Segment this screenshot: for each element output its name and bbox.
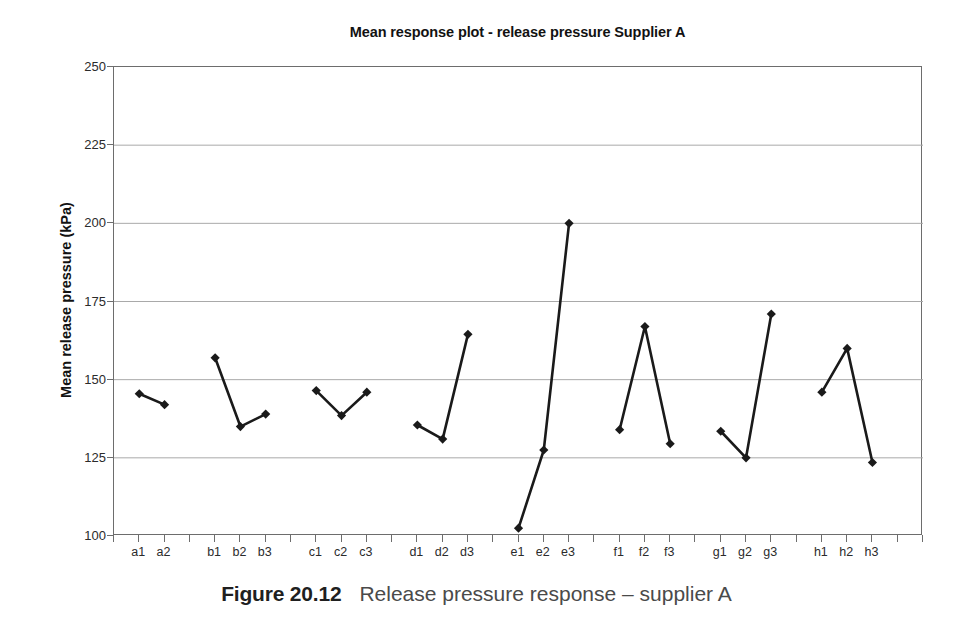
x-tick-label-f1: f1 [613, 545, 623, 559]
x-tick-mark [239, 535, 240, 542]
series-line-group-g [721, 314, 772, 458]
x-tick-label-g2: g2 [738, 545, 752, 559]
x-tick-mark [391, 535, 392, 542]
data-point-d3 [463, 330, 472, 339]
x-tick-label-b1: b1 [207, 545, 221, 559]
x-tick-mark [694, 535, 695, 542]
data-point-f3 [666, 439, 675, 448]
series-line-group-b [215, 358, 266, 427]
data-point-a2 [160, 400, 169, 409]
series-markers [135, 219, 877, 533]
y-axis-tick-labels: 100125150175200225250 [54, 66, 106, 535]
data-point-h3 [868, 458, 877, 467]
x-tick-mark [568, 535, 569, 542]
x-tick-mark [720, 535, 721, 542]
x-tick-label-c2: c2 [334, 545, 347, 559]
x-tick-mark [442, 535, 443, 542]
x-tick-mark [518, 535, 519, 542]
series-line-group-e [519, 223, 570, 528]
y-tick-label: 150 [60, 371, 106, 386]
x-tick-mark [265, 535, 266, 542]
data-point-b3 [261, 409, 270, 418]
data-point-e2 [539, 445, 548, 454]
series-line-group-h [822, 348, 873, 462]
x-tick-label-d1: d1 [409, 545, 423, 559]
y-tick-label: 250 [60, 59, 106, 74]
x-tick-mark [543, 535, 544, 542]
y-tick-mark [107, 66, 114, 67]
x-tick-label-e3: e3 [561, 545, 575, 559]
x-tick-mark [113, 535, 114, 542]
x-tick-mark [897, 535, 898, 542]
data-point-e3 [564, 219, 573, 228]
x-tick-mark [770, 535, 771, 542]
y-tick-label: 200 [60, 215, 106, 230]
x-tick-label-c1: c1 [309, 545, 322, 559]
x-tick-mark [416, 535, 417, 542]
x-tick-mark [846, 535, 847, 542]
x-tick-mark [366, 535, 367, 542]
data-point-g3 [767, 309, 776, 318]
y-tick-mark [107, 457, 114, 458]
data-point-b1 [211, 353, 220, 362]
x-tick-mark [164, 535, 165, 542]
x-tick-mark [290, 535, 291, 542]
x-tick-label-d3: d3 [460, 545, 474, 559]
series-line-group-f [620, 327, 671, 444]
x-tick-mark [138, 535, 139, 542]
x-tick-mark [214, 535, 215, 542]
x-tick-label-e1: e1 [511, 545, 525, 559]
x-tick-label-c3: c3 [359, 545, 372, 559]
series-line-group-d [417, 334, 468, 439]
x-tick-label-h3: h3 [864, 545, 878, 559]
y-tick-label: 125 [60, 449, 106, 464]
data-point-b2 [236, 422, 245, 431]
x-tick-mark [593, 535, 594, 542]
x-tick-label-h2: h2 [839, 545, 853, 559]
x-tick-mark [467, 535, 468, 542]
y-tick-label: 225 [60, 137, 106, 152]
plot-svg [114, 67, 923, 536]
x-tick-label-d2: d2 [435, 545, 449, 559]
x-tick-label-f3: f3 [664, 545, 674, 559]
x-tick-label-b2: b2 [232, 545, 246, 559]
x-tick-label-g3: g3 [763, 545, 777, 559]
y-tick-mark [107, 379, 114, 380]
data-point-e1 [514, 524, 523, 533]
x-tick-label-h1: h1 [814, 545, 828, 559]
figure-caption-text: Release pressure response – supplier A [359, 582, 731, 605]
x-tick-mark [492, 535, 493, 542]
x-tick-label-g1: g1 [713, 545, 727, 559]
x-tick-label-a2: a2 [157, 545, 171, 559]
y-tick-mark [107, 222, 114, 223]
x-tick-mark [922, 535, 923, 542]
x-tick-label-e2: e2 [536, 545, 550, 559]
chart-title: Mean response plot - release pressure Su… [113, 24, 922, 40]
data-point-a1 [135, 389, 144, 398]
figure-container: Mean response plot - release pressure Su… [0, 0, 953, 618]
x-tick-mark [871, 535, 872, 542]
x-tick-label-b3: b3 [258, 545, 272, 559]
x-tick-mark [745, 535, 746, 542]
y-tick-label: 175 [60, 293, 106, 308]
data-point-f2 [640, 322, 649, 331]
x-tick-mark [341, 535, 342, 542]
x-tick-label-f2: f2 [639, 545, 649, 559]
series-line-group-a [139, 394, 164, 405]
x-tick-mark [189, 535, 190, 542]
figure-caption: Figure 20.12Release pressure response – … [0, 582, 953, 606]
x-tick-mark [669, 535, 670, 542]
y-tick-label: 100 [60, 528, 106, 543]
series-line-segments [139, 223, 872, 528]
y-tick-mark [107, 301, 114, 302]
x-tick-mark [796, 535, 797, 542]
x-tick-mark [619, 535, 620, 542]
plot-area [113, 66, 922, 535]
x-tick-mark [315, 535, 316, 542]
x-tick-label-a1: a1 [131, 545, 145, 559]
x-tick-mark [644, 535, 645, 542]
x-tick-mark [821, 535, 822, 542]
y-tick-mark [107, 144, 114, 145]
figure-caption-label: Figure 20.12 [221, 582, 341, 605]
data-point-f1 [615, 425, 624, 434]
